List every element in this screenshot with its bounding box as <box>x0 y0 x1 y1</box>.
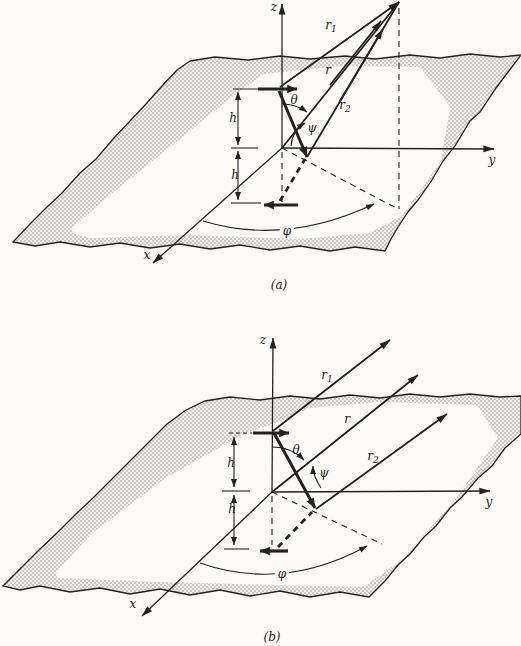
theta-label-a: θ <box>290 94 297 106</box>
ray-r1-label-b: r1 <box>321 369 332 384</box>
caption-b: (b) <box>263 631 280 643</box>
z-axis-label-b: z <box>260 334 266 346</box>
ray-r2-label-b: r2 <box>367 450 378 465</box>
diagram-b <box>3 338 521 616</box>
phi-label-b: φ <box>275 568 289 580</box>
ray-r-label-b: r <box>344 413 350 425</box>
ray-r2-label-a: r2 <box>339 99 350 114</box>
phi-label-a: φ <box>280 225 294 237</box>
z-axis-label-a: z <box>271 1 277 13</box>
h-upper-label-a: h <box>229 112 237 124</box>
psi-label-b: ψ <box>319 467 328 479</box>
h-lower-label-a: h <box>231 169 239 181</box>
x-axis-label-b: x <box>130 598 137 610</box>
psi-label-a: ψ <box>307 122 316 134</box>
h-upper-label-b: h <box>227 457 235 469</box>
y-axis-label-b: y <box>486 496 493 508</box>
caption-a: (a) <box>271 279 288 291</box>
figure-canvas <box>0 0 521 646</box>
ray-r1-label-a: r1 <box>325 19 336 34</box>
x-axis-label-a: x <box>144 249 151 261</box>
ray-r-label-a: r <box>325 64 331 76</box>
y-axis-label-a: y <box>489 154 496 166</box>
diagram-a <box>13 2 521 263</box>
theta-label-b: θ <box>292 444 299 456</box>
h-lower-label-b: h <box>228 503 236 515</box>
figure: z y x r1 r r2 θ ψ φ h h (a) z y x r1 r r… <box>0 0 521 646</box>
